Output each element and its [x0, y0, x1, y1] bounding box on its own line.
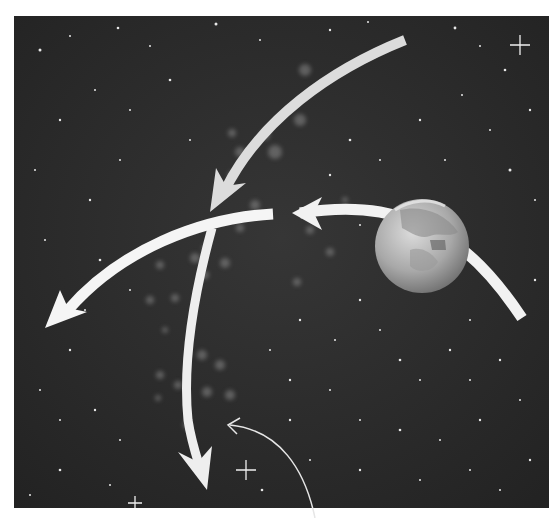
diagram-canvas: [0, 0, 558, 518]
earth: [375, 199, 469, 293]
space-diagram: [0, 0, 558, 518]
